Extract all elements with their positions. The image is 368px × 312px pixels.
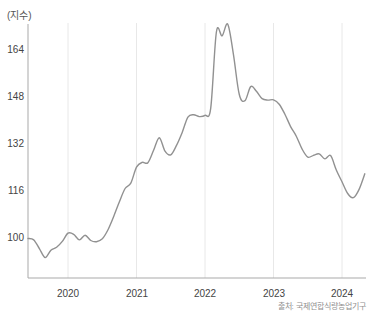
index-series-line bbox=[28, 24, 365, 258]
x-tick-label: 2022 bbox=[185, 288, 225, 299]
y-tick-label: 100 bbox=[0, 232, 24, 243]
y-tick-label: 164 bbox=[0, 44, 24, 55]
y-axis-unit-label: (지수) bbox=[7, 7, 32, 22]
y-tick-label: 148 bbox=[0, 91, 24, 102]
x-tick-label: 2021 bbox=[117, 288, 157, 299]
x-tick-label: 2020 bbox=[48, 288, 88, 299]
chart: (지수) 164 148 132 116 100 2020 2021 2022 … bbox=[0, 0, 368, 312]
y-tick-label: 116 bbox=[0, 185, 24, 196]
x-tick-label: 2024 bbox=[322, 288, 362, 299]
source-caption: 출처: 국제연합식량농업기구 bbox=[278, 300, 366, 311]
line-chart-plot bbox=[0, 0, 368, 312]
y-tick-label: 132 bbox=[0, 138, 24, 149]
x-tick-label: 2023 bbox=[254, 288, 294, 299]
